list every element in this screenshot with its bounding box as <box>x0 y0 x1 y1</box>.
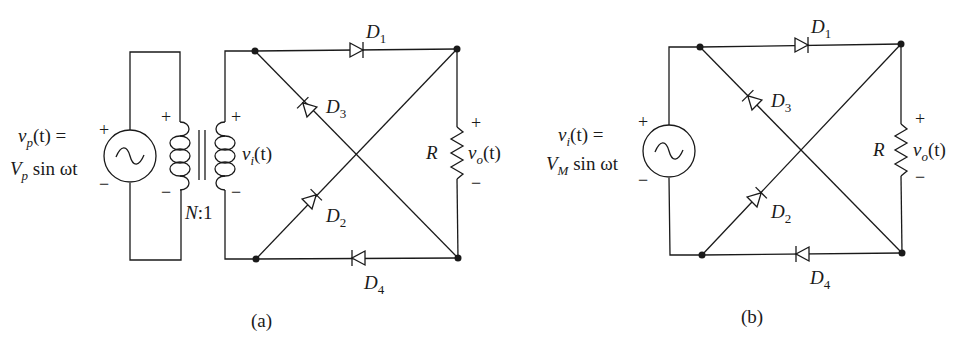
turns-ratio-label: N:1 <box>185 203 212 222</box>
diode-d4-label: D4 <box>364 273 384 292</box>
sub: i <box>250 153 254 168</box>
ac-source-icon <box>104 130 156 182</box>
secondary-plus: + <box>231 108 241 126</box>
amp: V <box>10 158 22 179</box>
diode-d3-label: D3 <box>326 97 346 116</box>
resistor-icon <box>895 124 907 176</box>
source-voltage-label: vp(t) = <box>18 126 66 145</box>
source-minus: − <box>99 175 109 193</box>
sub: 1 <box>825 26 832 41</box>
output-voltage-label: vo(t) <box>468 143 501 162</box>
diode-d1-label: D1 <box>811 17 831 36</box>
rest: (t) = <box>570 124 603 145</box>
transformer-core-icon <box>199 130 205 180</box>
panel-b-circuit <box>643 37 907 262</box>
sub: 3 <box>785 100 792 115</box>
sub: p <box>26 135 33 150</box>
sub: p <box>22 168 29 183</box>
name: D <box>811 16 825 37</box>
diode-d2-label: D2 <box>326 206 346 225</box>
secondary-coil-icon <box>215 122 235 190</box>
diode-d1-icon <box>795 37 808 53</box>
resistor-label: R <box>873 140 885 159</box>
source-plus: + <box>638 113 648 131</box>
sub: M <box>558 163 569 178</box>
sub: 1 <box>380 31 387 46</box>
secondary-voltage-label: vi(t) <box>242 144 272 163</box>
primary-coil-icon <box>170 122 190 190</box>
rest: (t) <box>483 142 501 163</box>
diode-d1-label: D1 <box>366 22 386 41</box>
name: D <box>326 96 340 117</box>
output-plus: + <box>471 114 481 132</box>
rest: (t) = <box>33 125 66 146</box>
bridge-rectifier-figure: vp(t) = Vp sin ωt + − + − + − vi(t) N:1 … <box>0 0 968 351</box>
source-minus: − <box>638 171 648 189</box>
sub: 2 <box>785 211 792 226</box>
sub: 4 <box>378 282 385 297</box>
rest: :1 <box>198 202 213 223</box>
rest: (t) <box>254 143 272 164</box>
caption-b: (b) <box>741 307 763 326</box>
output-minus: − <box>915 168 925 186</box>
name: D <box>326 205 340 226</box>
rest: sin ωt <box>28 158 77 179</box>
resistor-label: R <box>426 143 438 162</box>
name: D <box>366 21 380 42</box>
diode-d4-icon <box>796 246 809 262</box>
source-expression-label: Vp sin ωt <box>10 159 78 178</box>
primary-plus: + <box>161 108 171 126</box>
sub: 4 <box>824 277 831 292</box>
sub: 2 <box>340 215 347 230</box>
sub: i <box>566 134 570 149</box>
name: D <box>771 201 785 222</box>
diode-d3-label: D3 <box>771 91 791 110</box>
panel-a-circuit <box>104 42 463 266</box>
source-plus: + <box>99 121 109 139</box>
diode-d2-label: D2 <box>771 202 791 221</box>
name: D <box>771 90 785 111</box>
sub: o <box>476 152 483 167</box>
source-expression-label: VM sin ωt <box>546 154 618 173</box>
resistor-icon <box>451 127 463 179</box>
name: D <box>810 267 824 288</box>
sub: 3 <box>340 106 347 121</box>
sub: o <box>921 149 928 164</box>
output-plus: + <box>915 110 925 128</box>
n: N <box>185 202 198 223</box>
diode-d1-icon <box>350 42 363 58</box>
diode-d2-icon <box>301 189 322 210</box>
primary-minus: − <box>161 183 171 201</box>
rest: (t) <box>928 139 946 160</box>
diode-d3-icon <box>297 97 318 118</box>
output-minus: − <box>471 174 481 192</box>
source-voltage-label: vi(t) = <box>558 125 603 144</box>
caption-a: (a) <box>251 311 272 330</box>
rest: sin ωt <box>568 153 617 174</box>
name: D <box>364 272 378 293</box>
diode-d4-label: D4 <box>810 268 830 287</box>
amp: V <box>546 153 558 174</box>
secondary-minus: − <box>231 183 241 201</box>
diode-d4-icon <box>352 250 365 266</box>
output-voltage-label: vo(t) <box>913 140 946 159</box>
circuit-drawing <box>0 0 968 351</box>
ac-source-icon <box>643 125 695 177</box>
